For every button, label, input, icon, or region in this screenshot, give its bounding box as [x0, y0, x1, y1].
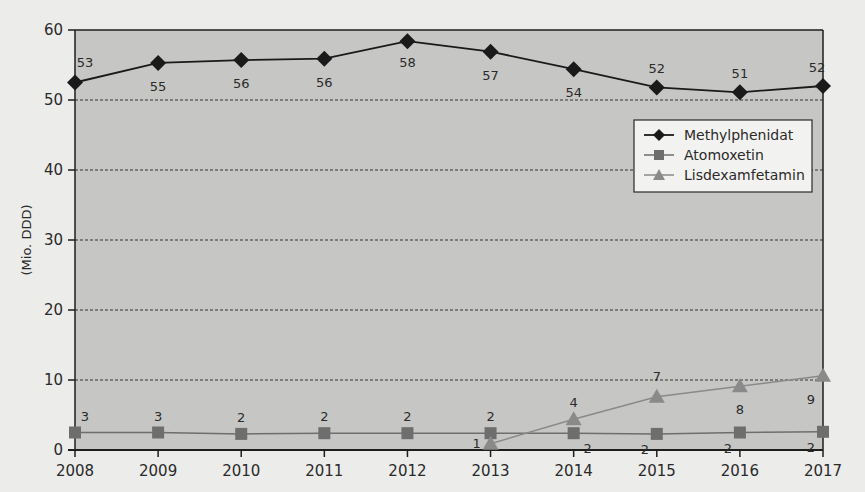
data-label: 2: [403, 409, 411, 424]
y-tick-label: 50: [44, 91, 63, 109]
x-tick-label: 2011: [305, 462, 343, 480]
square-marker-icon: [318, 427, 330, 439]
data-label: 3: [154, 409, 162, 424]
y-axis-ticks: 0102030405060: [44, 21, 75, 459]
data-label: 2: [807, 440, 815, 455]
data-label: 55: [150, 79, 167, 94]
data-label: 2: [584, 441, 592, 456]
square-marker-icon: [152, 427, 164, 439]
data-label: 57: [482, 68, 499, 83]
data-label: 9: [807, 392, 815, 407]
square-marker-icon: [401, 427, 413, 439]
y-tick-label: 10: [44, 371, 63, 389]
x-tick-label: 2010: [222, 462, 260, 480]
data-label: 58: [399, 55, 416, 70]
data-label: 2: [237, 410, 245, 425]
y-tick-label: 20: [44, 301, 63, 319]
square-marker-icon: [69, 427, 81, 439]
square-marker-icon: [654, 150, 664, 160]
data-label: 3: [81, 409, 89, 424]
data-label: 54: [565, 85, 582, 100]
y-tick-label: 30: [44, 231, 63, 249]
square-marker-icon: [651, 428, 663, 440]
square-marker-icon: [568, 427, 580, 439]
data-label: 7: [653, 369, 661, 384]
square-marker-icon: [734, 427, 746, 439]
x-tick-label: 2016: [721, 462, 759, 480]
data-label: 56: [233, 76, 250, 91]
y-tick-label: 40: [44, 161, 63, 179]
x-tick-label: 2017: [804, 462, 842, 480]
data-label: 52: [809, 60, 826, 75]
data-label: 2: [320, 409, 328, 424]
x-tick-label: 2009: [139, 462, 177, 480]
legend-label: Atomoxetin: [684, 147, 764, 163]
y-tick-label: 60: [44, 21, 63, 39]
data-label: 2: [486, 409, 494, 424]
x-tick-label: 2013: [471, 462, 509, 480]
data-label: 1: [472, 436, 480, 451]
y-axis-title: (Mio. DDD): [19, 205, 34, 276]
line-chart: 0102030405060 20082009201020112012201320…: [0, 0, 865, 492]
x-tick-label: 2012: [388, 462, 426, 480]
data-label: 4: [570, 395, 578, 410]
data-label: 8: [736, 402, 744, 417]
square-marker-icon: [235, 428, 247, 440]
data-label: 2: [641, 442, 649, 457]
data-label: 2: [724, 441, 732, 456]
x-tick-label: 2015: [638, 462, 676, 480]
y-tick-label: 0: [53, 441, 63, 459]
legend-label: Lisdexamfetamin: [684, 167, 805, 183]
legend-label: Methylphenidat: [684, 127, 794, 143]
data-label: 52: [649, 61, 666, 76]
square-marker-icon: [817, 426, 829, 438]
legend: Methylphenidat Atomoxetin Lisdexamfetami…: [634, 120, 812, 192]
data-label: 51: [732, 66, 749, 81]
data-label: 53: [77, 55, 94, 70]
data-label: 56: [316, 75, 333, 90]
x-tick-label: 2014: [555, 462, 593, 480]
x-tick-label: 2008: [56, 462, 94, 480]
